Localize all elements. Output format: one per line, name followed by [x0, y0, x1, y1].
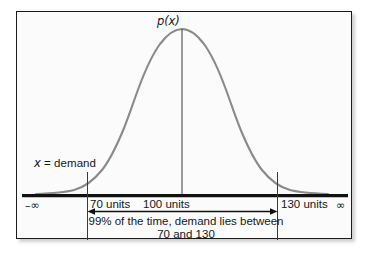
interval-caption-line-2: 70 and 130 — [0, 229, 370, 241]
figure-root: p(x) x = demand 70 units 100 units 130 u… — [0, 0, 370, 255]
tick-label-70: 70 units — [90, 199, 130, 211]
positive-infinity-label: ∞ — [336, 200, 345, 211]
density-function-label: p(x) — [157, 16, 180, 28]
axis-variable-label: x = demand — [34, 158, 96, 170]
tick-label-100: 100 units — [143, 199, 190, 211]
interval-caption-line-1: 99% of the time, demand lies between — [0, 216, 370, 228]
negative-infinity-label: –∞ — [25, 200, 40, 211]
tick-label-130: 130 units — [281, 199, 328, 211]
